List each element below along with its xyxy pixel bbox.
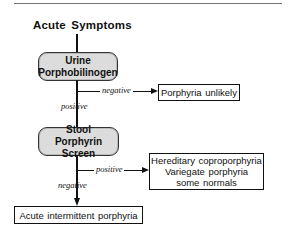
connector-stool-aip <box>76 155 78 199</box>
arrowhead-right-icon <box>151 88 158 94</box>
node-urine-line1: Urine <box>65 55 91 67</box>
node-aip-label: Acute intermittent porphyria <box>19 210 137 221</box>
node-acute-intermittent-porphyria: Acute intermittent porphyria <box>14 206 143 224</box>
edge-label-stool-positive: positive <box>94 164 124 174</box>
edge-label-urine-positive: positive <box>61 101 87 111</box>
arrowhead-down-icon <box>74 198 80 206</box>
node-outcome-line1: Hereditary coproporphyria <box>151 155 262 166</box>
node-positive-outcome: Hereditary coproporphyria Variegate porp… <box>149 153 264 190</box>
node-outcome-line3: some normals <box>176 177 237 188</box>
diagram-title: Acute Symptoms <box>33 19 132 31</box>
edge-label-urine-negative: negative <box>100 85 133 95</box>
arrowhead-right-icon <box>142 167 149 173</box>
node-porphyria-unlikely: Porphyria unlikely <box>158 84 240 101</box>
node-porphyria-unlikely-label: Porphyria unlikely <box>161 87 237 98</box>
node-stool-line2: Porphyrin Screen <box>39 136 118 160</box>
node-urine-line2: Porphobilinogen <box>38 67 117 79</box>
connector-title-urine <box>76 34 78 52</box>
node-stool-line1: Stool <box>66 124 91 136</box>
node-stool-porphyrin-screen: Stool Porphyrin Screen <box>38 127 119 156</box>
node-outcome-line2: Variegate porphyria <box>165 166 248 177</box>
node-urine-porphobilinogen: Urine Porphobilinogen <box>38 52 118 81</box>
top-rule <box>14 3 282 4</box>
edge-label-stool-negative: negative <box>58 180 87 190</box>
